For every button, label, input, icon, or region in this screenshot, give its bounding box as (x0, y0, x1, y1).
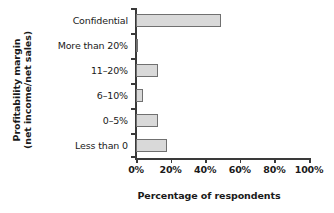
bar-6-10[interactable] (136, 89, 143, 102)
x-axis-tick (274, 158, 276, 163)
category-axis-labels: Confidential More than 20% 11–20% 6–10% … (30, 8, 132, 158)
x-axis-tick (240, 158, 242, 163)
x-axis-tick-label: 80% (263, 164, 285, 175)
y-axis-title-line-1: Profitability margin (11, 39, 22, 142)
bar-series (136, 8, 309, 158)
category-label-less-than-0: Less than 0 (30, 133, 132, 158)
x-axis-title: Percentage of respondents (0, 190, 334, 201)
bar-confidential[interactable] (136, 14, 221, 27)
x-axis-tick-label: 0% (128, 164, 144, 175)
bar-more-than-20[interactable] (136, 39, 138, 52)
bar-11-20[interactable] (136, 64, 158, 77)
bar-slot (136, 133, 309, 158)
bar-slot (136, 58, 309, 83)
bar-slot (136, 83, 309, 108)
bar-0-5[interactable] (136, 114, 158, 127)
x-axis-tick-label: 20% (160, 164, 182, 175)
category-label-confidential: Confidential (30, 8, 132, 33)
bar-slot (136, 108, 309, 133)
x-axis-tick (309, 158, 311, 163)
bar-slot (136, 8, 309, 33)
bar-chart: Profitability margin (net income/net sal… (0, 0, 334, 213)
x-axis-tick (136, 158, 138, 163)
x-axis-tick (171, 158, 173, 163)
category-label-more-than-20: More than 20% (30, 33, 132, 58)
x-axis-line (135, 158, 310, 160)
bar-less-than-0[interactable] (136, 139, 167, 152)
category-label-6-to-10: 6–10% (30, 83, 132, 108)
x-axis-tick-label: 100% (295, 164, 324, 175)
category-label-0-to-5: 0–5% (30, 108, 132, 133)
plot-area (136, 8, 309, 158)
x-axis-tick-label: 60% (229, 164, 251, 175)
bar-slot (136, 33, 309, 58)
category-label-11-to-20: 11–20% (30, 58, 132, 83)
x-axis-tick-label: 40% (194, 164, 216, 175)
x-axis-tick (205, 158, 207, 163)
